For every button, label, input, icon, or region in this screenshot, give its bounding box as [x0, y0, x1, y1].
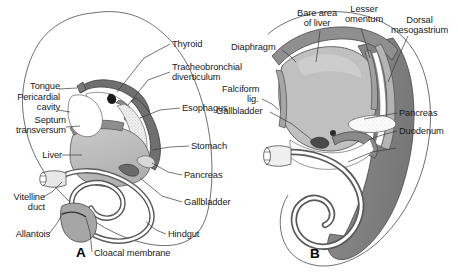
label-tracheobronchial-diverticulum: Tracheobronchial diverticulum: [172, 62, 242, 82]
label-vitelline-duct: Vitelline duct: [0, 192, 45, 212]
label-gallbladder: Gallbladder: [184, 197, 230, 207]
panel-b-artwork: [262, 12, 430, 266]
label-liver: Liver: [0, 150, 62, 160]
label-cloacal-membrane: Cloacal membrane: [94, 248, 170, 258]
label-septum-transversum: Septum transversum: [0, 115, 66, 135]
gallbladder-dot: [330, 130, 336, 136]
yolk-stalk-opening-b: [264, 148, 271, 164]
label-falciform-lig: lig.: [247, 94, 259, 104]
embryology-figure: Tongue Pericardial cavity Septum transve…: [0, 0, 458, 278]
label-diaphragm: Diaphragm: [231, 42, 276, 52]
label-pancreas-b: Pancreas: [399, 108, 437, 118]
label-duodenum: Duodenum: [399, 126, 444, 136]
label-thyroid: Thyroid: [172, 39, 202, 49]
vitelline-duct-opening: [40, 173, 46, 186]
label-tongue: Tongue: [0, 81, 60, 91]
label-hindgut: Hindgut: [168, 229, 199, 239]
label-pancreas: Pancreas: [184, 170, 222, 180]
label-stomach: Stomach: [191, 141, 227, 151]
panel-letter-a: A: [76, 245, 86, 260]
label-dorsal-mesogastrium: Dorsal mesogastrium: [381, 15, 458, 35]
figure-artwork: [0, 0, 458, 278]
label-allantois: Allantois: [0, 229, 50, 239]
label-falciform: Falciform: [222, 84, 259, 94]
label-pericardial-cavity: Pericardial cavity: [0, 92, 60, 112]
panel-letter-b: B: [310, 246, 320, 261]
label-gallbladder-b: Gallbladder: [216, 106, 262, 116]
